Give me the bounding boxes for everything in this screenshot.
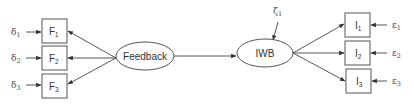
svg-text:IWB: IWB <box>256 48 275 59</box>
svg-text:ε1: ε1 <box>392 20 401 32</box>
latent-iwb: IWB <box>237 39 293 67</box>
svg-text:δ3: δ3 <box>11 80 21 92</box>
delta-1-error: δ1 <box>11 27 21 39</box>
indicator-f3: F3 <box>42 74 67 98</box>
indicator-f1: F1 <box>42 19 67 43</box>
indicator-i3: I3 <box>346 69 371 93</box>
indicator-i1: I1 <box>345 13 370 37</box>
epsilon-2-error: ε2 <box>392 48 401 60</box>
svg-text:δ1: δ1 <box>11 27 21 39</box>
arrow-zeta-iwb <box>273 22 278 40</box>
indicator-f2: F2 <box>42 46 67 70</box>
sem-diagram: δ1 δ2 δ3 F1 F2 F3 Feedback ζ1 IWB <box>0 0 414 105</box>
arrow-feedback-f1 <box>68 31 116 58</box>
arrow-iwb-i3 <box>293 53 345 81</box>
latent-feedback: Feedback <box>116 42 174 70</box>
epsilon-1-error: ε1 <box>392 20 401 32</box>
delta-3-error: δ3 <box>11 80 21 92</box>
svg-text:ζ1: ζ1 <box>273 6 282 18</box>
svg-text:ε3: ε3 <box>392 76 401 88</box>
arrow-feedback-f3 <box>68 58 116 84</box>
svg-text:δ2: δ2 <box>11 53 21 65</box>
zeta-1-disturbance: ζ1 <box>273 6 282 18</box>
indicator-i2: I2 <box>345 41 370 65</box>
arrow-iwb-i1 <box>293 24 344 53</box>
svg-text:Feedback: Feedback <box>123 51 168 62</box>
svg-text:ε2: ε2 <box>392 48 401 60</box>
delta-2-error: δ2 <box>11 53 21 65</box>
epsilon-3-error: ε3 <box>392 76 401 88</box>
